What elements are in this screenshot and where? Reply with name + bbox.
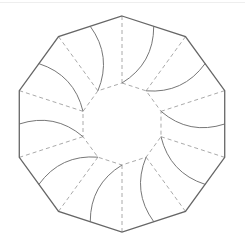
- dashed-radial-line: [19, 91, 83, 112]
- curved-fold-line: [90, 26, 103, 91]
- decagon-pinwheel-diagram: [0, 0, 245, 246]
- curved-fold-line: [146, 64, 205, 91]
- curved-fold-line: [90, 165, 122, 222]
- inner-decagon-dashed: [83, 83, 161, 165]
- curved-fold-line: [161, 111, 225, 127]
- dashed-radial-line: [59, 37, 98, 91]
- dashed-radial-line: [146, 157, 185, 211]
- curved-fold-lines: [19, 26, 224, 221]
- curved-fold-line: [122, 26, 154, 83]
- outer-decagon: [19, 16, 224, 232]
- dashed-radial-line: [161, 91, 225, 112]
- dashed-radial-line: [19, 137, 83, 158]
- dashed-radial-line: [161, 137, 225, 158]
- curved-fold-line: [140, 157, 153, 222]
- curved-fold-line: [19, 120, 83, 136]
- curved-fold-line: [39, 157, 98, 184]
